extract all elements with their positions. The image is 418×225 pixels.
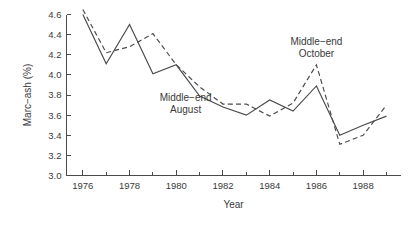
x-axis-minor-ticks <box>106 172 386 176</box>
y-tick-label: 3.4 <box>48 130 61 141</box>
y-axis-tick-labels: 3.03.23.43.63.84.04.24.44.6 <box>48 9 61 181</box>
y-axis-title: Marc−ash (%) <box>22 64 33 127</box>
y-tick-label: 3.2 <box>48 150 61 161</box>
x-tick-label: 1980 <box>166 180 187 191</box>
x-tick-label: 1982 <box>212 180 233 191</box>
y-tick-label: 4.6 <box>48 9 61 20</box>
series-line-october <box>83 9 387 144</box>
series-annotations: Middle−endOctoberMiddle−endAugust <box>160 36 343 115</box>
x-tick-label: 1988 <box>353 180 374 191</box>
august-label-line1: Middle−end <box>160 92 212 103</box>
y-tick-label: 3.0 <box>48 170 61 181</box>
x-tick-label: 1978 <box>119 180 140 191</box>
october-label-line1: Middle−end <box>290 36 342 47</box>
y-tick-label: 4.4 <box>48 29 61 40</box>
october-label-line2: October <box>299 48 335 59</box>
x-tick-label: 1984 <box>259 180 280 191</box>
x-axis-major-ticks <box>83 170 363 176</box>
y-tick-label: 4.0 <box>48 69 61 80</box>
y-tick-label: 3.8 <box>48 89 61 100</box>
y-axis-ticks <box>67 15 72 176</box>
x-tick-label: 1986 <box>306 180 327 191</box>
y-tick-label: 4.2 <box>48 49 61 60</box>
y-tick-label: 3.6 <box>48 110 61 121</box>
chart-container: 3.03.23.43.63.84.04.24.44.6 197619781980… <box>0 0 418 225</box>
x-axis-title: Year <box>223 199 244 210</box>
x-tick-label: 1976 <box>72 180 93 191</box>
x-axis-tick-labels: 1976197819801982198419861988 <box>72 180 373 191</box>
line-chart: 3.03.23.43.63.84.04.24.44.6 197619781980… <box>0 0 418 225</box>
august-label-line2: August <box>170 104 201 115</box>
series-line-august <box>83 15 387 136</box>
